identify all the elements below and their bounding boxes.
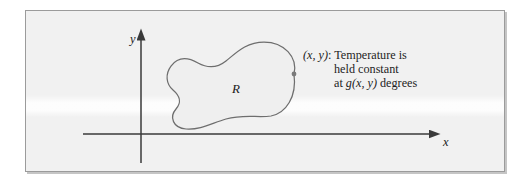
- region-r-outline: [167, 42, 295, 129]
- region-label: R: [232, 81, 240, 97]
- annotation-line-2: held constant: [303, 62, 498, 76]
- figure-root: y x R (x, y): Temperature is held consta…: [0, 0, 531, 184]
- diagram-canvas: [26, 11, 505, 172]
- annotation-point-label: (x, y): [303, 48, 328, 62]
- annotation-line-3: at g(x, y) degrees: [303, 76, 498, 90]
- annotation-line-1-suffix: : Temperature is: [328, 48, 407, 62]
- annotation-text-block: (x, y): Temperature is held constant at …: [303, 48, 498, 91]
- annotation-line-3-suffix: degrees: [377, 76, 417, 90]
- annotation-function-label: g(x, y): [346, 76, 377, 90]
- x-axis-label: x: [443, 135, 449, 150]
- figure-frame: y x R (x, y): Temperature is held consta…: [25, 10, 505, 172]
- y-axis-label: y: [130, 32, 136, 47]
- annotation-line-3-prefix: at: [334, 76, 346, 90]
- boundary-point-dot: [292, 72, 297, 77]
- annotation-line-1: (x, y): Temperature is: [303, 48, 498, 62]
